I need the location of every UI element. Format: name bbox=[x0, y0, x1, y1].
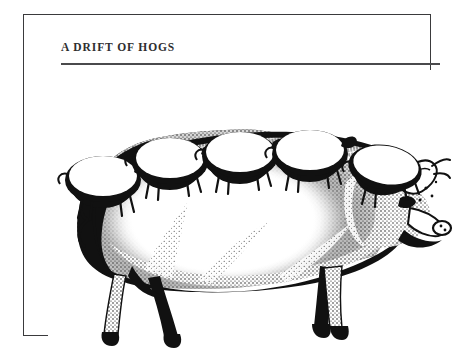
hog-illustration bbox=[48, 70, 454, 350]
hog-illustration-svg bbox=[48, 70, 454, 350]
page-title: A DRIFT OF HOGS bbox=[61, 40, 175, 54]
illustration-frame: A DRIFT OF HOGS bbox=[23, 14, 431, 336]
title-divider-rule bbox=[61, 63, 440, 65]
